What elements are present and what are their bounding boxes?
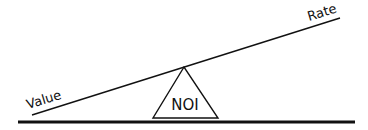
fulcrum-label: NOI <box>171 96 198 114</box>
beam-left-label: Value <box>24 87 63 112</box>
seesaw-diagram: NOI Value Rate <box>0 0 368 130</box>
